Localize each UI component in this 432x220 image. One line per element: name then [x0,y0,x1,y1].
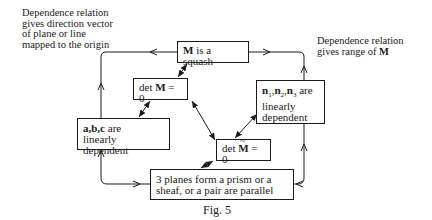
left-annotation-line: Dependence relation [22,8,113,19]
figure-caption: Fig. 5 [203,203,231,218]
matrix-symbol: M [155,81,165,93]
box-m-is-squash: M is a squash [177,41,249,63]
box-det-mtilde-zero: det M = 0 [216,139,271,161]
right-annotation-text: gives range of [317,46,379,57]
right-annotation: Dependence relation gives range of M [317,36,404,57]
left-annotation-line: of plane or line [22,29,113,40]
box-abc-dependent: a,b,c are linearly dependent [77,118,170,150]
box-text: are [296,84,312,96]
box-line: linearly dependent [83,134,164,156]
subscript: 1 [268,91,272,99]
left-annotation-line: mapped to the origin [22,40,113,51]
matrix-symbol: M [379,46,389,57]
subscript: 2 [281,91,285,99]
matrix-tilde-symbol: M [238,143,248,154]
box-line: n1,n2,n3 are [262,85,319,101]
right-annotation-line: gives range of M [317,47,404,58]
box-line: dependent [262,112,319,123]
box-det-m-zero: det M = 0 [133,78,188,100]
box-line: sheaf, or a pair are parallel [156,185,288,196]
left-annotation: Dependence relation gives direction vect… [22,8,113,50]
box-three-planes: 3 planes form a prism or a sheaf, or a p… [150,169,294,200]
box-n-dependent: n1,n2,n3 are linearly dependent [256,80,325,124]
